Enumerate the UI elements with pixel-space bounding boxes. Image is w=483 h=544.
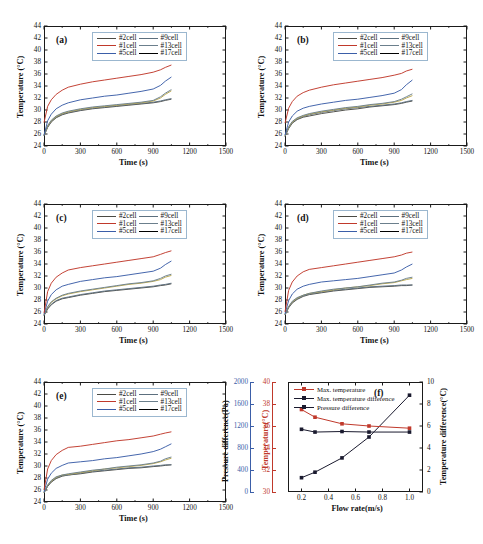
legend-line-icon xyxy=(139,45,158,46)
x-tick-label: 900 xyxy=(382,327,406,334)
y-tick-label: 40 xyxy=(25,47,41,54)
x-tick-label: 300 xyxy=(68,149,92,156)
temperature-tick-label: 36 xyxy=(258,423,270,430)
series-line-cell-13cell xyxy=(44,457,171,492)
y-tick-label: 28 xyxy=(25,119,41,126)
temperature-tick-label: 38 xyxy=(258,401,270,408)
y-axis-title: Temperature (°C) xyxy=(17,234,25,296)
y-tick-label: 24 xyxy=(266,321,282,328)
legend-line-icon xyxy=(380,45,399,46)
y-tick-label: 24 xyxy=(25,499,41,506)
legend-label-cell-17cell: #17cell xyxy=(401,50,424,58)
legend-swatch-cell-13cell xyxy=(138,399,160,407)
legend-label-cell-5cell: #5cell xyxy=(359,50,379,58)
legend-row-f: Max. temperature difference xyxy=(294,394,394,402)
x-tick-label: 0 xyxy=(273,327,297,334)
legend-label-cell-17cell: #17cell xyxy=(160,228,183,236)
x-axis-title: Time (s) xyxy=(119,159,148,167)
legend-line-icon xyxy=(97,53,116,54)
y-tick-label: 44 xyxy=(266,201,282,208)
legend-line-icon xyxy=(97,216,116,217)
tempdiff-tick-label: 10 xyxy=(427,379,434,386)
y-axis-title: Temperature (°C) xyxy=(17,56,25,118)
legend-row: #5cell#17cell xyxy=(96,406,183,414)
y-tick-label: 36 xyxy=(25,249,41,256)
y-tick-label: 42 xyxy=(25,391,41,398)
y-tick-label: 34 xyxy=(266,83,282,90)
temperature-axis-line xyxy=(272,382,273,492)
plot-frame-d xyxy=(285,204,467,324)
x-tick-label: 1500 xyxy=(455,149,479,156)
tempdiff-tick-label: 0 xyxy=(427,489,431,496)
series-line-cell-2cell xyxy=(285,101,412,136)
legend-line-icon xyxy=(97,231,116,232)
x-tick-label: 900 xyxy=(141,327,165,334)
tempdiff-tick-label: 8 xyxy=(427,401,431,408)
x-tick-label: 1500 xyxy=(214,505,238,512)
legend-row-f: Max. temperature xyxy=(294,385,394,393)
series-line-cell-5cell xyxy=(285,80,412,135)
pressure-tick xyxy=(250,426,254,427)
series-marker xyxy=(300,408,304,412)
series-marker xyxy=(408,393,412,397)
pressure-axis-title: Pressure difference(Pa) xyxy=(222,400,230,482)
legend-line-icon xyxy=(380,231,399,232)
temperature-tick-label: 32 xyxy=(258,467,270,474)
legend-swatch-cell-9cell xyxy=(138,35,160,43)
panel-d: 2426283032343638404244030060090012001500… xyxy=(0,0,483,544)
series-line-cell-9cell xyxy=(285,100,412,136)
panel-f: 0400800120016002000Pressure difference(P… xyxy=(0,0,483,544)
legend-row: #2cell#9cell xyxy=(337,213,424,221)
plot-frame-e xyxy=(44,382,226,502)
x-tick-label: 600 xyxy=(105,505,129,512)
legend-line-icon xyxy=(139,53,158,54)
series-marker xyxy=(408,430,412,434)
legend-swatch-cell-13cell xyxy=(138,43,160,51)
legend-label-cell-2cell: #2cell xyxy=(359,35,379,43)
y-tick-label: 38 xyxy=(266,59,282,66)
plot-canvas-a xyxy=(44,26,226,146)
y-tick-label: 24 xyxy=(266,143,282,150)
legend-row-f: Pressure difference xyxy=(294,403,394,411)
x-tick-label: 300 xyxy=(309,149,333,156)
y-tick-label: 38 xyxy=(266,237,282,244)
temperature-tick xyxy=(272,470,276,471)
legend-e: #2cell#9cell#1cell#13cell#5cell#17cell xyxy=(92,388,187,417)
legend-label-cell-13cell: #13cell xyxy=(160,399,183,407)
y-tick-label: 32 xyxy=(266,95,282,102)
y-tick-label: 26 xyxy=(25,131,41,138)
legend-label-cell-5cell: #5cell xyxy=(359,228,379,236)
y-tick-label: 34 xyxy=(266,261,282,268)
legend-swatch-cell-13cell xyxy=(138,221,160,229)
y-tick-label: 30 xyxy=(25,107,41,114)
legend-swatch-cell-13cell xyxy=(379,221,401,229)
legend-label-cell-17cell: #17cell xyxy=(160,406,183,414)
plot-canvas-f xyxy=(288,382,423,492)
series-line-cell-9cell xyxy=(44,465,171,493)
x-tick-label: 900 xyxy=(141,505,165,512)
series-marker xyxy=(367,435,371,439)
series-marker xyxy=(340,422,344,426)
series-marker xyxy=(300,428,304,432)
series-marker xyxy=(313,430,317,434)
y-tick-label: 30 xyxy=(266,285,282,292)
y-tick-label: 28 xyxy=(25,297,41,304)
legend-line-icon xyxy=(338,216,357,217)
legend-swatch-cell-2cell xyxy=(96,213,118,221)
x-tick-label: 1200 xyxy=(419,149,443,156)
y-tick-label: 28 xyxy=(266,297,282,304)
legend-swatch-cell-9cell xyxy=(138,391,160,399)
legend-swatch-cell-2cell xyxy=(96,35,118,43)
legend-row: #5cell#17cell xyxy=(96,228,183,236)
y-tick-label: 44 xyxy=(25,379,41,386)
legend-swatch-cell-5cell xyxy=(337,50,359,58)
x-tick-label: 0 xyxy=(32,505,56,512)
series-line-cell-2cell xyxy=(44,284,171,316)
y-tick-label: 44 xyxy=(25,23,41,30)
legend-row: #1cell#13cell xyxy=(96,399,183,407)
y-tick-label: 26 xyxy=(25,487,41,494)
legend-swatch-cell-1cell xyxy=(96,399,118,407)
legend-marker-icon xyxy=(294,395,314,402)
legend-marker-icon xyxy=(294,404,314,411)
legend-marker-icon xyxy=(294,386,314,393)
